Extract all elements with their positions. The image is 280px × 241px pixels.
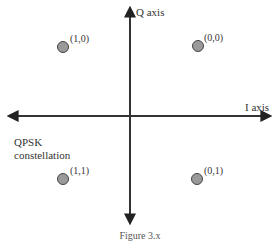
constellation-point-00 bbox=[192, 40, 204, 52]
constellation-point-11 bbox=[57, 173, 69, 185]
point-label-10: (1,0) bbox=[70, 33, 89, 44]
point-label-00: (0,0) bbox=[204, 32, 223, 43]
q-axis-label: Q axis bbox=[136, 6, 164, 18]
point-label-01: (0,1) bbox=[204, 165, 223, 176]
figure-caption: Figure 3.x bbox=[0, 230, 280, 241]
title-line-1: QPSK bbox=[14, 136, 42, 148]
constellation-point-10 bbox=[57, 41, 69, 53]
point-label-11: (1,1) bbox=[70, 165, 89, 176]
constellation-point-01 bbox=[191, 173, 203, 185]
title-line-2: constellation bbox=[14, 149, 70, 161]
i-axis-label: I axis bbox=[245, 101, 269, 113]
